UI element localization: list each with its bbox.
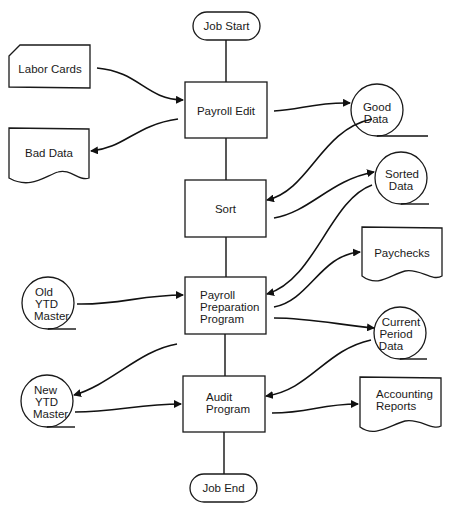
payroll-prep-line-3: Program xyxy=(200,313,244,325)
payroll-prep-line-2: Preparation xyxy=(200,301,259,313)
document-accounting-reports: Accounting Reports xyxy=(360,377,441,431)
payroll-edit-label: Payroll Edit xyxy=(197,105,256,117)
old-ytd-line-1: Old xyxy=(35,286,53,298)
tape-sorted-data: Sorted Data xyxy=(375,152,429,204)
process-payroll-preparation: Payroll Preparation Program xyxy=(185,277,266,334)
audit-line-2: Program xyxy=(206,403,250,415)
arrow-audit-to-accounting-reports xyxy=(272,404,358,413)
job-start-label: Job Start xyxy=(203,20,250,32)
old-ytd-line-3: Master xyxy=(34,310,69,322)
tape-good-data: Good Data xyxy=(351,84,428,136)
sorted-data-line-1: Sorted xyxy=(385,168,419,180)
arrow-sort-to-sorted-data xyxy=(274,172,374,218)
new-ytd-line-1: New xyxy=(34,384,58,396)
paychecks-label: Paychecks xyxy=(374,247,430,259)
arrow-current-period-to-audit xyxy=(266,340,371,396)
arrow-payroll-prep-to-new-ytd xyxy=(74,344,177,395)
job-end-terminal: Job End xyxy=(190,474,257,502)
old-ytd-line-2: YTD xyxy=(35,298,58,310)
process-sort: Sort xyxy=(185,180,266,237)
tape-new-ytd-master: New YTD Master xyxy=(21,375,75,427)
arrow-new-ytd-to-audit xyxy=(75,404,181,412)
arrow-payroll-edit-to-bad-data xyxy=(91,119,178,151)
good-data-line-2: Data xyxy=(364,113,389,125)
sort-label: Sort xyxy=(215,203,237,215)
accounting-reports-line-1: Accounting xyxy=(376,388,433,400)
sorted-data-line-2: Data xyxy=(389,180,414,192)
job-end-label: Job End xyxy=(202,482,244,494)
input-labor-cards: Labor Cards xyxy=(9,45,90,88)
arrow-labor-cards-to-payroll-edit xyxy=(97,68,183,100)
current-period-line-1: Current xyxy=(382,316,421,328)
bad-data-label: Bad Data xyxy=(25,147,74,159)
arrow-good-data-to-sort xyxy=(267,119,372,200)
payroll-flowchart: Job Start Payroll Edit Sort Payroll Prep… xyxy=(0,0,450,515)
labor-cards-label: Labor Cards xyxy=(18,63,82,75)
new-ytd-line-2: YTD xyxy=(35,396,58,408)
arrow-old-ytd-to-payroll-prep xyxy=(77,295,183,304)
arrow-payroll-prep-to-current-period xyxy=(274,318,374,328)
process-audit-program: Audit Program xyxy=(183,376,265,432)
accounting-reports-line-2: Reports xyxy=(376,400,417,412)
job-start-terminal: Job Start xyxy=(193,12,260,40)
new-ytd-line-3: Master xyxy=(33,408,68,420)
audit-line-1: Audit xyxy=(206,391,233,403)
tape-current-period-data: Current Period Data xyxy=(374,307,427,359)
process-payroll-edit: Payroll Edit xyxy=(185,82,267,138)
arrow-sorted-data-to-payroll-prep xyxy=(267,185,372,294)
payroll-prep-line-1: Payroll xyxy=(200,289,235,301)
arrow-payroll-prep-to-paychecks xyxy=(274,252,360,307)
document-paychecks: Paychecks xyxy=(362,227,442,281)
good-data-line-1: Good xyxy=(363,101,391,113)
tape-old-ytd-master: Old YTD Master xyxy=(22,277,76,329)
current-period-line-2: Period xyxy=(379,328,412,340)
current-period-line-3: Data xyxy=(379,340,404,352)
arrow-payroll-edit-to-good-data xyxy=(274,103,350,111)
document-bad-data: Bad Data xyxy=(9,128,89,183)
